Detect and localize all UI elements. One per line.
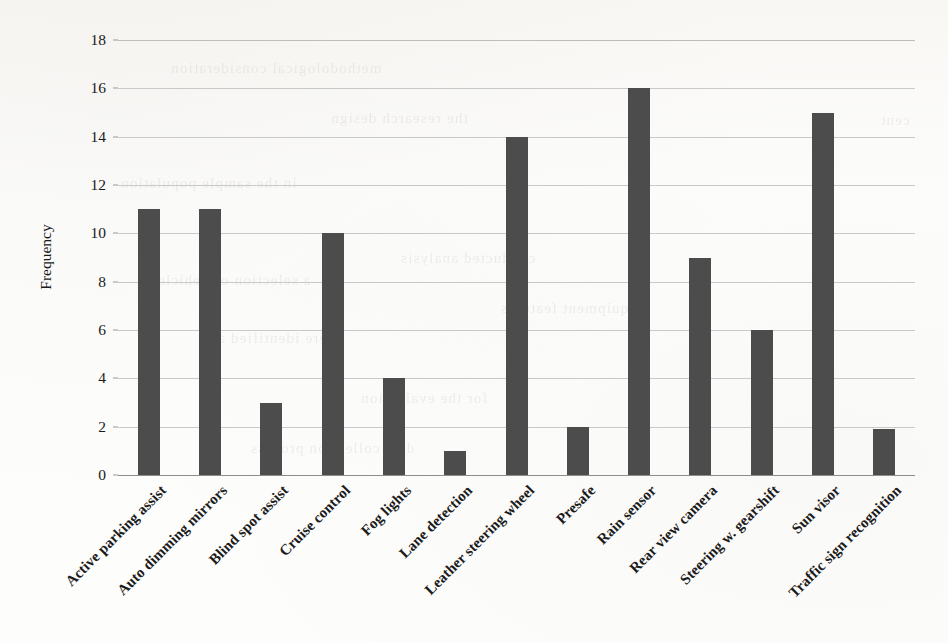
x-axis-labels-group: Active parking assistAuto dimming mirror… (118, 482, 915, 642)
x-axis-label-text: Sun visor (789, 482, 844, 537)
bar (506, 137, 528, 475)
x-axis-label: Rain sensor (594, 482, 660, 548)
gridline-0 (118, 475, 915, 476)
y-tick-label: 16 (91, 79, 107, 97)
x-axis-label-text: Traffic sign recognition (786, 482, 905, 601)
y-tick-label: 6 (98, 321, 106, 339)
y-axis-title: Frequency (37, 224, 55, 289)
bar (628, 88, 650, 475)
bar (383, 378, 405, 475)
bar (689, 258, 711, 476)
bar (751, 330, 773, 475)
x-axis-label: Traffic sign recognition (786, 482, 905, 601)
x-axis-label-text: Active parking assist (62, 482, 170, 590)
x-axis-label: Active parking assist (62, 482, 170, 590)
plot-area: 181614121086420 (118, 40, 915, 475)
y-tick-label: 4 (98, 369, 106, 387)
y-tick-label: 10 (91, 224, 107, 242)
bars-group (118, 40, 915, 475)
y-tick-label: 18 (91, 31, 107, 49)
bar (444, 451, 466, 475)
bar (567, 427, 589, 475)
x-axis-label-text: Presafe (553, 482, 599, 528)
bar-chart-figure: methodological considerationthe research… (0, 0, 948, 643)
bar (322, 233, 344, 475)
y-tick-label: 8 (98, 273, 106, 291)
y-tick-label: 12 (91, 176, 107, 194)
x-axis-label: Sun visor (789, 482, 844, 537)
bar (199, 209, 221, 475)
x-axis-label-text: Leather steering wheel (421, 482, 537, 598)
x-axis-label: Leather steering wheel (421, 482, 537, 598)
x-axis-label: Auto dimming mirrors (114, 482, 231, 599)
bar (260, 403, 282, 476)
bar (812, 113, 834, 476)
bar (873, 429, 895, 475)
x-axis-label: Fog lights (358, 482, 415, 539)
x-axis-label: Presafe (553, 482, 599, 528)
x-axis-label-text: Auto dimming mirrors (114, 482, 231, 599)
y-tick-label: 0 (98, 466, 106, 484)
y-tick-label: 2 (98, 418, 106, 436)
x-axis-label-text: Rain sensor (594, 482, 660, 548)
y-tick-label: 14 (91, 128, 107, 146)
bar (138, 209, 160, 475)
x-axis-label-text: Fog lights (358, 482, 415, 539)
